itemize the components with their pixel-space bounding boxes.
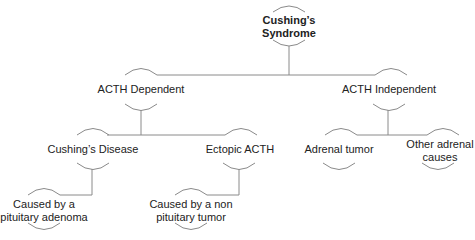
cushings-disease-bottom-arc [77, 163, 109, 170]
node-label-line: Other adrenal [406, 138, 473, 151]
node-label-line: causes [406, 151, 473, 164]
node-other-adrenal-causes: Other adrenal causes [406, 138, 473, 164]
acth-dependent-top-arc [125, 69, 157, 76]
node-label-line: pituitary adenoma [0, 211, 87, 224]
pituitary-adenoma-top-arc [28, 189, 60, 196]
root-bottom-arc [273, 40, 305, 46]
node-cushings-disease: Cushing’s Disease [48, 143, 139, 156]
node-label-line: pituitary tumor [149, 211, 232, 224]
hierarchy-diagram: Cushing’s Syndrome ACTH Dependent ACTH I… [0, 0, 475, 240]
node-non-pituitary-tumor: Caused by a non pituitary tumor [149, 198, 232, 224]
node-adrenal-tumor: Adrenal tumor [304, 143, 373, 156]
node-acth-dependent: ACTH Dependent [98, 83, 185, 96]
node-cushings-syndrome: Cushing’s Syndrome [262, 14, 316, 40]
node-label-line: Syndrome [262, 27, 316, 40]
adrenal-tumor-top-arc [325, 129, 357, 136]
other-adrenal-top-arc [427, 129, 459, 136]
acth-dependent-bottom-arc [125, 104, 157, 111]
node-label-line: Caused by a [0, 198, 87, 211]
cushings-disease-top-arc [77, 129, 109, 136]
adrenal-tumor-bottom-arc [323, 163, 355, 170]
node-pituitary-adenoma: Caused by a pituitary adenoma [0, 198, 87, 224]
node-ectopic-acth: Ectopic ACTH [206, 143, 274, 156]
acth-independent-top-arc [375, 69, 407, 76]
node-label-line: Cushing’s [262, 14, 316, 27]
node-label-line: Caused by a non [149, 198, 232, 211]
node-acth-independent: ACTH Independent [342, 83, 436, 96]
ectopic-acth-top-arc [225, 129, 257, 136]
acth-independent-bottom-arc [373, 104, 405, 111]
root-top-arc [273, 6, 305, 12]
ectopic-acth-bottom-arc [223, 163, 255, 170]
non-pituitary-top-arc [175, 189, 207, 196]
